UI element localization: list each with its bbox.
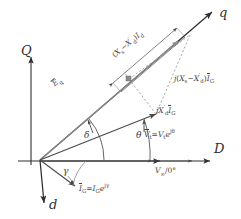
phasor-diagram-canvas bbox=[0, 0, 241, 219]
jxsxdig-i: I bbox=[207, 74, 210, 83]
ig-lhs: I bbox=[79, 184, 82, 193]
axis-label-Q: Q bbox=[21, 44, 32, 57]
phasor-label-Vt: Vt=Vtejθ bbox=[144, 129, 175, 140]
angle-label-theta: θ bbox=[136, 131, 141, 140]
phasor-label-IG: IG=IGejγ bbox=[79, 183, 109, 194]
vinf-angle: /0° bbox=[165, 166, 176, 175]
right-angle-marker bbox=[126, 76, 131, 81]
jxdig-i-sub: G bbox=[171, 110, 175, 116]
jxdig-i: I bbox=[168, 106, 171, 115]
angle-tick-marks bbox=[68, 120, 144, 184]
phasor-label-Vinf: V∞/0° bbox=[155, 167, 176, 177]
phasor-label-jXsXdIG: j(Xs−X′d)IG bbox=[174, 73, 214, 84]
ig-exp-sup: jγ bbox=[104, 182, 109, 188]
angle-label-delta: δ bbox=[84, 131, 89, 140]
phasor-jXdIG bbox=[40, 79, 156, 160]
axis-label-d: d bbox=[49, 198, 57, 211]
arc-gamma bbox=[73, 161, 86, 185]
jxsxdig-i-sub: G bbox=[210, 78, 214, 84]
vt-lhs: V bbox=[144, 130, 149, 139]
vt-exp-sup: jθ bbox=[170, 128, 175, 134]
axis-d bbox=[40, 160, 44, 203]
phasor-label-jXdIG: jX′dIG bbox=[156, 105, 176, 116]
phasor-IG bbox=[40, 160, 75, 186]
axis-label-q: q bbox=[219, 6, 227, 19]
angle-label-gamma: γ bbox=[63, 167, 68, 176]
axis-label-D: D bbox=[214, 142, 224, 155]
phasor-diagram: q d Q D δ θ γ Eq (Xs−X′d)Id j(Xs−X′d)IG … bbox=[0, 0, 241, 219]
